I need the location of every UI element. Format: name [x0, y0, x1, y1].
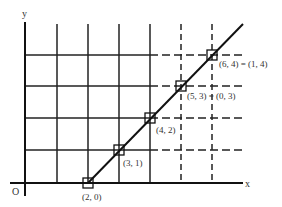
origin-label: O [12, 186, 19, 197]
y-axis-label: y [22, 8, 27, 19]
coordinate-diagram: y x O (2, 0) (3, 1) (4, 2) (5, 3) = (0, … [0, 0, 282, 207]
point-label-4-2: (4, 2) [156, 125, 176, 135]
point-label-2-0: (2, 0) [82, 192, 102, 202]
point-label-3-1: (3, 1) [123, 158, 143, 168]
x-axis-label: x [245, 178, 250, 189]
point-label-5-3: (5, 3) = (0, 3) [187, 91, 236, 101]
dashed-grid-verticals [181, 24, 212, 183]
line-segment [88, 24, 243, 183]
dashed-grid-horizontals [150, 55, 243, 150]
point-label-6-4: (6, 4) = (1, 4) [219, 59, 268, 69]
